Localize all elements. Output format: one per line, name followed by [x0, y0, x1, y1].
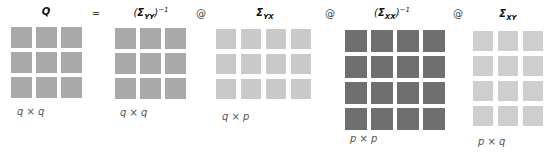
- term-symbol: Σ: [499, 8, 506, 19]
- matrix-q: [11, 27, 82, 98]
- matrix-cell: [291, 29, 311, 49]
- matrix-cell: [423, 56, 445, 78]
- term-subscript: XX: [385, 13, 396, 21]
- matrix-sigma-xy: [473, 31, 543, 126]
- matrix-cell: [423, 108, 445, 130]
- term-symbol: Q: [42, 6, 51, 17]
- matrix-cell: [115, 53, 136, 74]
- matrix-cell: [423, 82, 445, 104]
- term-title-q: Q: [42, 6, 51, 17]
- matrix-cell: [241, 54, 261, 74]
- matrix-cell: [523, 31, 543, 51]
- matrix-cell: [345, 56, 367, 78]
- matrix-cell: [345, 82, 367, 104]
- dims-sigma-yy-inverse: q × q: [120, 107, 147, 118]
- matrix-cell: [371, 30, 393, 52]
- term-title-sigma-yx: ΣYX: [256, 7, 273, 21]
- matrix-cell: [473, 106, 493, 126]
- matrix-cell: [216, 29, 236, 49]
- term-superscript: −1: [158, 6, 168, 14]
- matrix-cell: [371, 108, 393, 130]
- matrix-cell: [498, 56, 518, 76]
- matrix-cell: [397, 82, 419, 104]
- term-superscript: −1: [400, 6, 410, 14]
- dims-sigma-xx-inverse: p × p: [350, 133, 377, 144]
- matrix-cell: [140, 78, 161, 99]
- matrix-cell: [241, 29, 261, 49]
- matrix-cell: [266, 29, 286, 49]
- term-title-sigma-yy-inverse: (ΣYY)−1: [133, 6, 168, 21]
- matrix-cell: [115, 78, 136, 99]
- matrix-cell: [523, 106, 543, 126]
- matrix-cell: [165, 78, 186, 99]
- matrix-cell: [371, 56, 393, 78]
- matrix-sigma-yy-inverse: [115, 28, 186, 99]
- matrix-cell: [498, 106, 518, 126]
- matrix-cell: [115, 28, 136, 49]
- term-subscript: XY: [506, 14, 516, 22]
- matrix-cell: [140, 28, 161, 49]
- matmul-operator-2: @: [325, 8, 335, 19]
- dims-sigma-yx: q × p: [222, 111, 249, 122]
- term-symbol: Σ: [137, 7, 144, 18]
- matrix-cell: [473, 31, 493, 51]
- matrix-cell: [473, 56, 493, 76]
- matrix-cell: [61, 52, 82, 73]
- equals-operator: =: [92, 8, 100, 19]
- matrix-cell: [36, 27, 57, 48]
- matrix-cell: [61, 27, 82, 48]
- matrix-cell: [397, 30, 419, 52]
- matmul-operator-1: @: [196, 8, 206, 19]
- matrix-cell: [36, 77, 57, 98]
- matrix-cell: [291, 54, 311, 74]
- matrix-cell: [523, 56, 543, 76]
- matrix-cell: [11, 77, 32, 98]
- dims-sigma-xy: p × q: [478, 136, 505, 147]
- matrix-cell: [523, 81, 543, 101]
- matmul-operator-3: @: [453, 8, 463, 19]
- matrix-cell: [371, 82, 393, 104]
- term-subscript: YX: [263, 13, 273, 21]
- matrix-cell: [345, 108, 367, 130]
- matrix-cell: [345, 30, 367, 52]
- matrix-cell: [36, 52, 57, 73]
- matrix-cell: [216, 79, 236, 99]
- matrix-cell: [241, 79, 261, 99]
- matrix-cell: [216, 54, 236, 74]
- term-symbol: Σ: [378, 7, 385, 18]
- matrix-cell: [266, 54, 286, 74]
- matrix-cell: [397, 108, 419, 130]
- term-subscript: YY: [144, 13, 154, 21]
- term-title-sigma-xx-inverse: (ΣXX)−1: [374, 6, 410, 21]
- matrix-cell: [11, 52, 32, 73]
- matrix-cell: [266, 79, 286, 99]
- matrix-sigma-xx-inverse: [345, 30, 445, 130]
- term-symbol: Σ: [256, 7, 263, 18]
- matrix-cell: [140, 53, 161, 74]
- dims-q: q × q: [17, 106, 44, 117]
- matrix-cell: [291, 79, 311, 99]
- term-title-sigma-xy: ΣXY: [499, 8, 516, 22]
- matrix-cell: [11, 27, 32, 48]
- matrix-cell: [423, 30, 445, 52]
- matrix-cell: [165, 28, 186, 49]
- matrix-cell: [473, 81, 493, 101]
- matrix-cell: [498, 81, 518, 101]
- matrix-cell: [165, 53, 186, 74]
- matrix-cell: [397, 56, 419, 78]
- matrix-cell: [498, 31, 518, 51]
- matrix-cell: [61, 77, 82, 98]
- matrix-sigma-yx: [216, 29, 311, 99]
